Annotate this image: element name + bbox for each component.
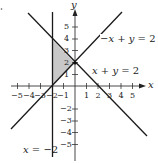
x-axis-label: x <box>148 80 154 90</box>
x-tick-label: −1 <box>57 92 69 100</box>
x-tick-label: 2 <box>96 92 101 100</box>
equation-lhs: −x + y <box>100 33 134 44</box>
y-tick-label: 3 <box>64 47 69 55</box>
x-tick-label: 3 <box>107 92 112 100</box>
equation-rhs: = −2 <box>29 144 58 155</box>
equation-label-x-plus-y: x + y = 2 <box>92 66 139 76</box>
equation-label-neg-x-plus-y: −x + y = 2 <box>100 34 156 44</box>
y-tick-label: −3 <box>60 117 72 125</box>
y-tick-label: −4 <box>60 129 72 137</box>
y-axis-arrow-icon <box>73 9 78 16</box>
x-tick-label: −3 <box>34 92 46 100</box>
x-axis-arrow-icon <box>139 84 146 89</box>
x-tick-label: 5 <box>130 92 135 100</box>
equation-rhs: = 2 <box>134 33 155 44</box>
y-tick-label: 1 <box>64 71 69 79</box>
equation-label-x-eq-neg2: x = −2 <box>23 145 58 155</box>
y-tick-label: 5 <box>64 23 69 31</box>
y-tick-label: 4 <box>64 35 69 43</box>
y-tick-label: −5 <box>60 141 72 149</box>
equation-rhs: = 2 <box>118 65 139 76</box>
y-tick-label: 2 <box>64 59 69 67</box>
x-tick-label: 1 <box>84 92 89 100</box>
y-axis-label: y <box>71 0 77 10</box>
x-tick-label: −5 <box>11 92 23 100</box>
equation-lhs: x + y <box>92 65 118 76</box>
graph-canvas <box>0 0 158 163</box>
intersection-point <box>73 61 76 64</box>
y-tick-label: −2 <box>60 105 72 113</box>
stray-mark <box>1 8 3 10</box>
x-tick-label: 4 <box>119 92 124 100</box>
